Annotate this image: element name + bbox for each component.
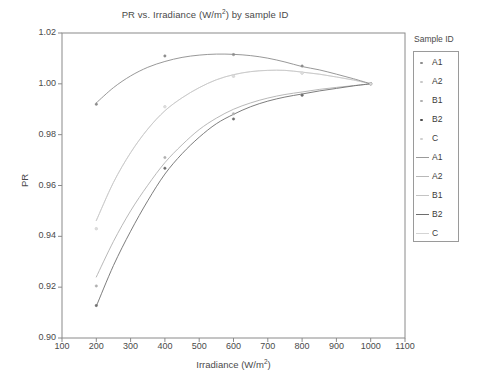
x-tick-label: 1100 [385,341,425,351]
legend-marker-icon [414,110,432,129]
legend-item-marker-c[interactable]: C [414,129,458,148]
chart-figure: PR vs. Irradiance (W/m2) by sample ID 0.… [0,0,486,391]
legend-label: A2 [432,72,442,91]
y-axis-label: PR [19,151,30,211]
legend-line-icon [414,148,432,167]
legend-line-icon [414,186,432,205]
legend-item-line-c[interactable]: C [414,224,458,243]
legend-item-marker-a1[interactable]: A1 [414,53,458,72]
legend-item-marker-b1[interactable]: B1 [414,91,458,110]
x-axis-label-tail: ) [268,359,271,370]
legend-label: A2 [432,167,442,186]
legend-label: C [432,224,438,243]
legend-item-line-b1[interactable]: B1 [414,186,458,205]
legend-line-icon [414,224,432,243]
legend-item-marker-a2[interactable]: A2 [414,72,458,91]
legend-box: A1A2B1B2CA1A2B1B2C [413,51,459,242]
legend-marker-icon [414,91,432,110]
legend-label: B2 [432,110,442,129]
legend-label: A1 [432,148,442,167]
legend-item-line-b2[interactable]: B2 [414,205,458,224]
legend-item-marker-b2[interactable]: B2 [414,110,458,129]
legend-label: A1 [432,53,442,72]
legend-marker-icon [414,129,432,148]
legend-item-line-a2[interactable]: A2 [414,167,458,186]
legend-marker-icon [414,53,432,72]
x-axis-label-main: Irradiance (W/m [196,359,264,370]
legend-marker-icon [414,72,432,91]
legend-title: Sample ID [414,34,454,44]
legend-label: B1 [432,91,442,110]
legend-label: B1 [432,186,442,205]
legend-item-line-a1[interactable]: A1 [414,148,458,167]
legend-line-icon [414,205,432,224]
legend-line-icon [414,167,432,186]
x-axis-label: Irradiance (W/m2) [62,358,405,370]
legend-label: C [432,129,438,148]
legend-label: B2 [432,205,442,224]
